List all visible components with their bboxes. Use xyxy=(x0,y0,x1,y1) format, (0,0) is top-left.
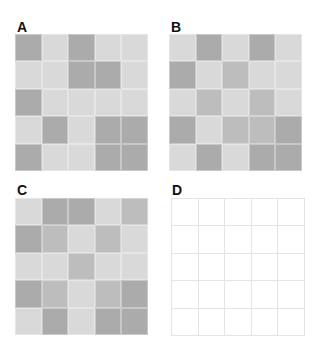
grid-cell xyxy=(42,198,69,225)
grid-cell xyxy=(42,61,69,88)
grid-cell xyxy=(68,253,95,280)
grid-cell xyxy=(277,308,304,335)
grid-cell xyxy=(171,253,198,280)
panel-label-b: B xyxy=(171,20,181,34)
grid-cell xyxy=(42,253,69,280)
grid-cell xyxy=(171,198,198,225)
grid-cell xyxy=(249,34,276,61)
grid-cell xyxy=(198,198,225,225)
grid-cell xyxy=(251,225,278,252)
grid-cell xyxy=(249,89,276,116)
grid-cell xyxy=(15,61,42,88)
grid-cell xyxy=(171,308,198,335)
grid-cell xyxy=(169,144,196,171)
grid-cell xyxy=(15,34,42,61)
grid-cell xyxy=(171,225,198,252)
grid-cell xyxy=(222,89,249,116)
grid-cell xyxy=(15,89,42,116)
grid-cell xyxy=(251,253,278,280)
grid-cell xyxy=(222,61,249,88)
grid-cell xyxy=(95,198,122,225)
grid-cell xyxy=(196,34,223,61)
grid-cell xyxy=(42,308,69,335)
grid-cell xyxy=(15,280,42,307)
grid-a xyxy=(15,34,148,171)
grid-cell xyxy=(222,34,249,61)
grid-cell xyxy=(171,280,198,307)
grid-cell xyxy=(277,198,304,225)
grid-cell xyxy=(68,89,95,116)
grid-cell xyxy=(198,253,225,280)
grid-cell xyxy=(68,225,95,252)
grid-cell xyxy=(249,144,276,171)
grid-cell xyxy=(121,253,148,280)
grid-cell xyxy=(275,61,302,88)
grid-cell xyxy=(198,225,225,252)
grid-cell xyxy=(15,253,42,280)
grid-cell xyxy=(95,253,122,280)
grid-cell xyxy=(222,144,249,171)
grid-cell xyxy=(95,34,122,61)
grid-cell xyxy=(42,225,69,252)
grid-cell xyxy=(42,144,69,171)
grid-cell xyxy=(249,116,276,143)
grid-cell xyxy=(68,61,95,88)
grid-cell xyxy=(251,198,278,225)
grid-cell xyxy=(224,225,251,252)
grid-b xyxy=(169,34,302,171)
panel-label-a: A xyxy=(17,20,27,34)
grid-cell xyxy=(196,144,223,171)
grid-cell xyxy=(121,198,148,225)
grid-cell xyxy=(95,61,122,88)
grid-cell xyxy=(42,280,69,307)
grid-cell xyxy=(121,34,148,61)
grid-cell xyxy=(275,116,302,143)
grid-cell xyxy=(224,280,251,307)
grid-cell xyxy=(95,308,122,335)
grid-cell xyxy=(196,89,223,116)
grid-cell xyxy=(68,308,95,335)
grid-cell xyxy=(42,34,69,61)
grid-cell xyxy=(68,116,95,143)
grid-cell xyxy=(121,61,148,88)
grid-c xyxy=(15,198,148,335)
grid-cell xyxy=(15,144,42,171)
grid-cell xyxy=(15,116,42,143)
grid-cell xyxy=(95,225,122,252)
grid-d-empty xyxy=(171,198,305,336)
grid-cell xyxy=(277,225,304,252)
grid-cell xyxy=(121,280,148,307)
grid-cell xyxy=(68,280,95,307)
grid-cell xyxy=(121,308,148,335)
panel-label-c: C xyxy=(17,183,27,197)
grid-cell xyxy=(249,61,276,88)
grid-cell xyxy=(275,34,302,61)
grid-cell xyxy=(15,308,42,335)
grid-cell xyxy=(95,144,122,171)
grid-cell xyxy=(42,116,69,143)
grid-cell xyxy=(251,280,278,307)
grid-cell xyxy=(42,89,69,116)
grid-cell xyxy=(275,89,302,116)
grid-cell xyxy=(196,61,223,88)
grid-cell xyxy=(198,280,225,307)
grid-cell xyxy=(68,198,95,225)
grid-cell xyxy=(121,225,148,252)
grid-cell xyxy=(95,116,122,143)
grid-cell xyxy=(196,116,223,143)
grid-cell xyxy=(95,280,122,307)
grid-cell xyxy=(222,116,249,143)
grid-cell xyxy=(169,89,196,116)
grid-cell xyxy=(198,308,225,335)
grid-cell xyxy=(121,116,148,143)
grid-cell xyxy=(15,225,42,252)
grid-cell xyxy=(277,280,304,307)
grid-cell xyxy=(224,198,251,225)
grid-cell xyxy=(68,34,95,61)
grid-cell xyxy=(169,116,196,143)
panel-label-d: D xyxy=(172,183,182,197)
grid-cell xyxy=(224,308,251,335)
grid-cell xyxy=(169,61,196,88)
grid-cell xyxy=(121,144,148,171)
grid-cell xyxy=(275,144,302,171)
